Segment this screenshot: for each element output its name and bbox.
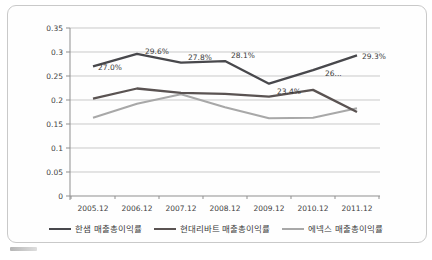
legend-item-1: 현대리바트 매출총이익률 (154, 225, 271, 234)
x-tick-label: 2005.12 (77, 204, 108, 213)
x-tick-label: 2010.12 (297, 204, 328, 213)
legend-label: 에넥스 매출총이익률 (308, 225, 383, 234)
data-label: 23.4% (277, 87, 301, 96)
series-line-0 (93, 54, 357, 84)
data-label: 29.3% (362, 52, 386, 61)
legend-item-2: 에넥스 매출총이익률 (282, 225, 383, 234)
x-tick-label: 2006.12 (121, 204, 152, 213)
data-label: 28.1% (231, 51, 255, 60)
y-tick-label: 0.3 (51, 48, 63, 57)
legend-label: 한샘 매출총이익률 (75, 225, 142, 234)
data-label: 27.8% (188, 53, 212, 62)
x-tick-label: 2007.12 (165, 204, 196, 213)
legend-swatch (49, 228, 71, 230)
scan-artifact (10, 247, 37, 251)
y-tick-label: 0.15 (46, 120, 63, 129)
legend-label: 현대리바트 매출총이익률 (180, 225, 271, 234)
data-label: 26... (325, 69, 342, 78)
legend-swatch (154, 228, 176, 230)
series-line-2 (93, 94, 357, 118)
y-tick-label: 0 (58, 192, 63, 201)
data-label: 27.0% (98, 63, 122, 72)
x-tick-label: 2009.12 (253, 204, 284, 213)
y-tick-label: 0.25 (46, 72, 63, 81)
chart-page: 00.050.10.150.20.250.30.352005.122006.12… (0, 0, 432, 260)
legend-swatch (282, 228, 304, 230)
legend-item-0: 한샘 매출총이익률 (49, 225, 142, 234)
legend: 한샘 매출총이익률현대리바트 매출총이익률에넥스 매출총이익률 (35, 221, 397, 237)
y-tick-label: 0.2 (51, 96, 63, 105)
y-tick-label: 0.35 (46, 24, 63, 33)
x-tick-label: 2011.12 (341, 204, 372, 213)
y-tick-label: 0.1 (51, 144, 63, 153)
y-tick-label: 0.05 (46, 168, 63, 177)
data-label: 29.6% (145, 47, 169, 56)
x-tick-label: 2008.12 (209, 204, 240, 213)
